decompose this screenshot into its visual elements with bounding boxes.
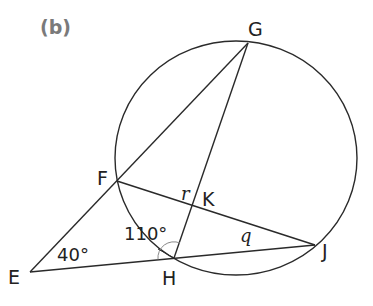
chord-g-h (174, 43, 248, 258)
point-label-f: F (97, 167, 108, 189)
angle-label-fhe: 110° (124, 223, 167, 244)
part-label: (b) (40, 16, 71, 38)
point-label-g: G (248, 18, 263, 40)
point-label-e: E (8, 266, 20, 288)
point-label-h: H (162, 267, 176, 289)
point-label-j: J (321, 240, 328, 262)
point-label-k: K (202, 188, 215, 210)
angle-pointer-h (158, 249, 174, 258)
angle-label-r: r (181, 183, 191, 204)
geometry-diagram: (b) G F K J H E 40° 110° r q (0, 0, 373, 306)
angle-label-e: 40° (57, 244, 89, 265)
angle-label-q: q (240, 225, 252, 246)
